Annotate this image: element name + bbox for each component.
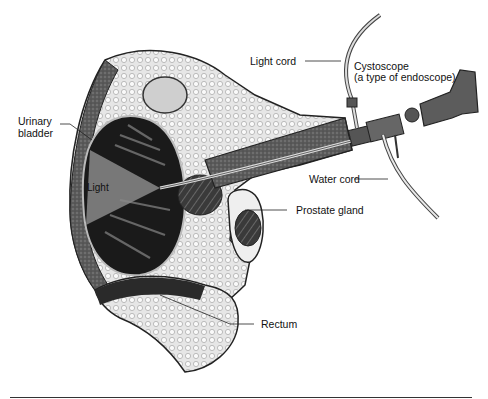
label-light-cord: Light cord (250, 55, 296, 67)
label-cystoscope-subtitle: (a type of endoscope) (354, 71, 456, 83)
anatomy-illustration (0, 0, 488, 399)
label-prostate-gland: Prostate gland (296, 204, 364, 216)
label-water-cord: Water cord (309, 173, 360, 185)
pubic-bone (143, 77, 187, 113)
rectum (95, 276, 238, 372)
cystoscopy-diagram: Light cord Cystoscope (a type of endosco… (0, 0, 488, 399)
bottom-rule (10, 397, 472, 398)
label-rectum: Rectum (261, 318, 297, 330)
urinary-bladder (83, 116, 185, 275)
label-light: Light (87, 182, 109, 193)
label-urinary-bladder-1: Urinary (18, 115, 52, 127)
label-urinary-bladder-2: bladder (18, 127, 53, 139)
water-cord (383, 135, 438, 218)
cystoscope-instrument (346, 15, 478, 218)
